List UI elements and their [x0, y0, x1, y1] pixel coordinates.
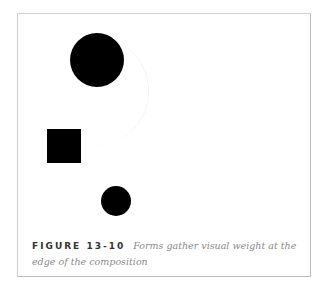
small-circle: [101, 186, 131, 216]
figure-label: FIGURE 13-10: [32, 241, 125, 251]
large-circle: [70, 33, 124, 87]
figure-caption: FIGURE 13-10Forms gather visual weight a…: [32, 238, 302, 269]
square: [47, 129, 81, 163]
